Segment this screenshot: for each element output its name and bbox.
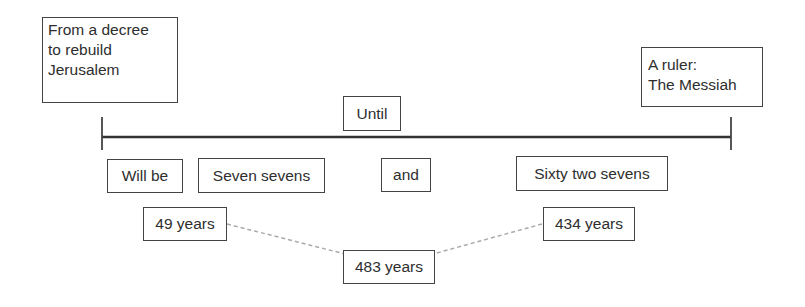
seven-sevens-label: Seven sevens <box>198 158 325 193</box>
connector-49-to-483 <box>227 224 345 254</box>
start-event-box: From a decree to rebuild Jerusalem <box>42 17 178 103</box>
start-event-line-2: to rebuild <box>48 40 172 60</box>
years-483-text: 483 years <box>355 257 423 277</box>
start-event-line-1: From a decree <box>48 20 172 40</box>
and-text: and <box>393 165 419 185</box>
end-event-line-1: A ruler: <box>648 55 756 75</box>
seven-sevens-text: Seven sevens <box>213 166 310 186</box>
end-event-line-2: The Messiah <box>648 75 756 95</box>
start-event-line-3: Jerusalem <box>48 60 172 80</box>
years-434-text: 434 years <box>555 214 623 234</box>
until-label: Until <box>343 96 401 131</box>
years-49-box: 49 years <box>143 207 227 241</box>
years-434-box: 434 years <box>543 207 635 241</box>
years-49-text: 49 years <box>155 214 214 234</box>
years-483-box: 483 years <box>343 250 435 284</box>
will-be-label: Will be <box>107 159 183 193</box>
until-text: Until <box>356 104 387 124</box>
sixty-two-sevens-text: Sixty two sevens <box>534 164 649 184</box>
end-event-box: A ruler: The Messiah <box>641 47 763 107</box>
connector-434-to-483 <box>433 224 542 254</box>
and-label: and <box>381 158 431 192</box>
will-be-text: Will be <box>122 166 169 186</box>
sixty-two-sevens-label: Sixty two sevens <box>516 156 668 191</box>
